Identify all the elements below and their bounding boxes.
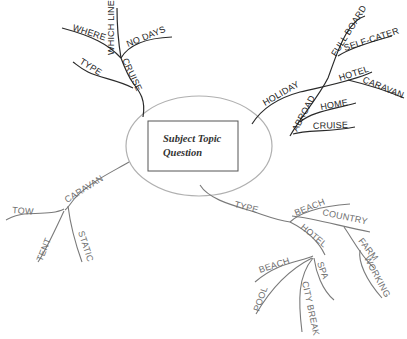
label-country: COUNTRY	[322, 207, 369, 226]
label-city-break: CITY BREAK	[300, 280, 321, 336]
label-spa: SPA	[315, 260, 331, 280]
label-which-line: WHICH LINE	[106, 0, 116, 55]
label-caravan-left: CARAVAN	[63, 173, 105, 205]
central-box	[148, 121, 238, 171]
label-tent: TENT	[35, 236, 53, 263]
central-text-line1: Subject Topic	[163, 133, 222, 144]
branch-cruise: WHERE WHICH LINE NO DAYS CRUISE TYPE	[62, 0, 172, 117]
branch-caravan: CARAVAN TOW TENT STATIC	[6, 162, 129, 263]
label-type-bottom: TYPE	[234, 199, 260, 215]
central-node: Subject Topic Question	[126, 96, 272, 196]
label-type-top: TYPE	[78, 56, 104, 77]
label-static: STATIC	[76, 230, 95, 264]
mind-map: Subject Topic Question WHERE WHICH LINE …	[0, 0, 407, 339]
label-no-days: NO DAYS	[125, 24, 167, 49]
branch-holiday: HOLIDAY HOTEL CARAVAN	[252, 64, 405, 124]
label-where: WHERE	[71, 22, 107, 42]
label-tow: TOW	[12, 205, 34, 216]
label-home: HOME	[320, 97, 349, 112]
branch-abroad: FULL BOARD SELF-CATER ABROAD HOME CRUISE	[290, 3, 401, 136]
label-caravan-right: CARAVAN	[361, 75, 405, 101]
branch-type: TYPE BEACH COUNTRY HOTEL FARM WORKING BE…	[200, 185, 392, 337]
label-beach-low: BEACH	[258, 255, 292, 274]
label-hotel-bottom: HOTEL	[299, 222, 329, 250]
label-pool: POOL	[251, 285, 269, 313]
label-cruise-right: CRUISE	[313, 120, 349, 131]
central-text-line2: Question	[163, 147, 202, 158]
branch-line-which-line	[117, 8, 121, 58]
